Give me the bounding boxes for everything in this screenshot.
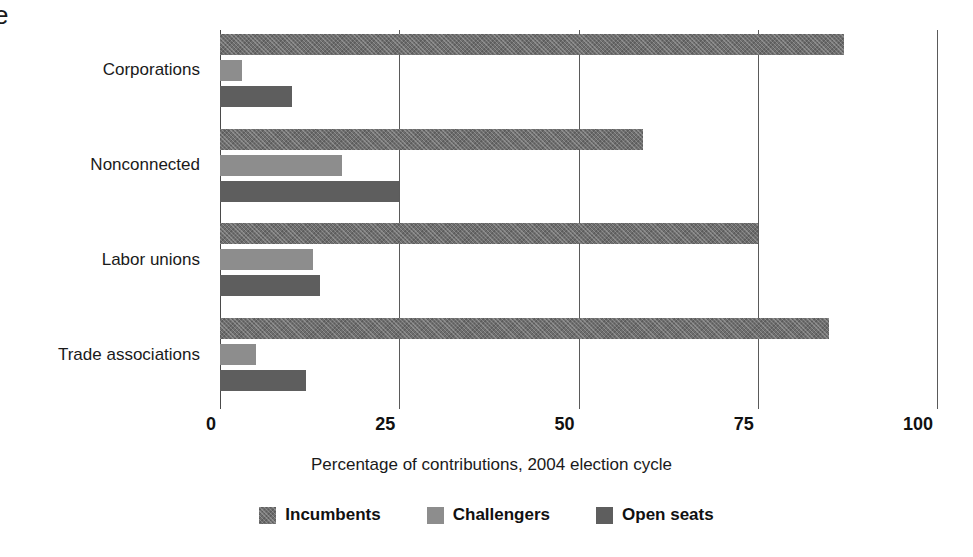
legend-label: Incumbents: [285, 505, 380, 525]
bar-corporations-challengers: [220, 60, 242, 81]
bar-group: [220, 314, 937, 409]
bar-trade-associations-challengers: [220, 344, 256, 365]
x-tick-label-100: 100: [903, 414, 937, 435]
bar-labor-unions-open-seats: [220, 275, 320, 296]
bar-corporations-incumbents: [220, 34, 844, 55]
bar-nonconnected-open-seats: [220, 181, 399, 202]
x-axis-ticks: 0255075100: [220, 414, 937, 440]
legend-swatch-icon: [259, 507, 276, 524]
legend-item-open-seats[interactable]: Open seats: [596, 505, 714, 525]
x-tick-label-75: 75: [734, 414, 758, 435]
chart-legend: IncumbentsChallengersOpen seats: [0, 505, 973, 525]
legend-label: Challengers: [453, 505, 550, 525]
x-axis-title-text: Percentage of contributions, 2004 electi…: [311, 455, 672, 474]
bar-nonconnected-incumbents: [220, 129, 643, 150]
bar-nonconnected-challengers: [220, 155, 342, 176]
x-tick-label-0: 0: [206, 414, 220, 435]
category-label-corporations: Corporations: [103, 60, 200, 80]
category-label-labor-unions: Labor unions: [102, 250, 200, 270]
bar-labor-unions-incumbents: [220, 223, 758, 244]
bar-labor-unions-challengers: [220, 249, 313, 270]
legend-swatch-icon: [596, 507, 613, 524]
bar-group: [220, 220, 937, 315]
x-axis-title: Percentage of contributions, 2004 electi…: [0, 455, 973, 475]
category-axis-labels: CorporationsNonconnectedLabor unionsTrad…: [0, 30, 200, 409]
bar-trade-associations-incumbents: [220, 318, 829, 339]
gridline-100: [937, 30, 938, 409]
legend-swatch-icon: [427, 507, 444, 524]
category-label-nonconnected: Nonconnected: [90, 155, 200, 175]
plot-area: [220, 30, 937, 409]
legend-item-incumbents[interactable]: Incumbents: [259, 505, 380, 525]
bar-group: [220, 30, 937, 125]
bar-trade-associations-open-seats: [220, 370, 306, 391]
x-tick-label-25: 25: [375, 414, 399, 435]
legend-item-challengers[interactable]: Challengers: [427, 505, 550, 525]
x-tick-label-50: 50: [554, 414, 578, 435]
bar-corporations-open-seats: [220, 86, 292, 107]
legend-label: Open seats: [622, 505, 714, 525]
clipped-edge-text: e: [0, 2, 8, 28]
category-label-trade-associations: Trade associations: [58, 345, 200, 365]
bar-group: [220, 125, 937, 220]
